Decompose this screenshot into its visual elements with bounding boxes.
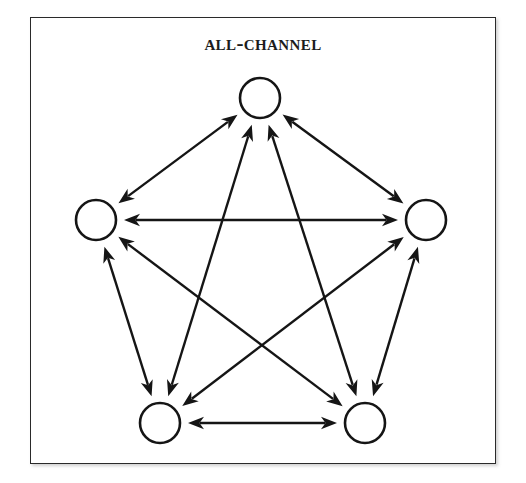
edge-line	[272, 136, 352, 385]
arrowhead-toward-bottom-right	[326, 392, 343, 407]
arrowhead-toward-top	[221, 115, 238, 130]
figure-root: All-Channel	[0, 0, 526, 483]
edge-right-to-bottom-left	[182, 237, 403, 406]
edge-line	[377, 258, 415, 384]
edge-line	[192, 244, 394, 398]
edge-line	[108, 258, 148, 385]
edge-line	[292, 122, 394, 197]
node-right	[406, 200, 446, 240]
edge-top-to-right	[283, 115, 404, 204]
node-left	[76, 200, 116, 240]
edge-left-to-right	[124, 214, 398, 226]
edges-layer	[103, 115, 419, 430]
arrowhead-toward-right	[387, 237, 403, 252]
edge-bottom-left-to-bottom-right	[188, 417, 337, 429]
edge-top-to-bottom-left	[167, 125, 253, 396]
edge-left-to-bottom-left	[103, 247, 152, 397]
edge-line	[128, 244, 333, 399]
node-bottom-right	[345, 403, 385, 443]
edge-top-to-bottom-right	[268, 125, 358, 397]
arrowhead-toward-bottom-left	[182, 391, 198, 406]
arrowhead-toward-right	[387, 189, 404, 203]
arrowhead-toward-top	[283, 115, 300, 129]
node-top	[240, 78, 280, 118]
edge-right-to-bottom-right	[372, 247, 420, 396]
edge-top-to-left	[118, 115, 237, 204]
edge-line	[172, 136, 248, 385]
edge-line	[128, 122, 228, 196]
arrowhead-toward-left	[118, 237, 135, 252]
nodes-layer	[76, 78, 446, 443]
arrowhead-toward-left	[118, 189, 135, 204]
all-channel-network-diagram	[0, 0, 526, 483]
node-bottom-left	[140, 403, 180, 443]
